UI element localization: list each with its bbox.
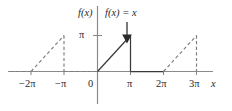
dashed-ramp-left bbox=[31, 36, 64, 72]
x-tick-label-0: 0 bbox=[88, 79, 93, 90]
x-tick-label-2pi: 2π bbox=[156, 79, 167, 90]
sawtooth-function-figure: f(x) f(x) = x π −2π −π 0 π 2π 3π x bbox=[0, 0, 232, 111]
function-annotation-label: f(x) = x bbox=[105, 8, 137, 19]
solid-ramp-principal bbox=[98, 36, 131, 72]
x-tick-label-3pi: 3π bbox=[189, 79, 200, 90]
y-axis-label: f(x) bbox=[78, 8, 93, 19]
y-tick-label-pi: π bbox=[79, 30, 84, 41]
x-tick-label--2pi: −2π bbox=[19, 79, 35, 90]
x-tick-label--pi: −π bbox=[55, 79, 66, 90]
x-tick-label-pi: π bbox=[127, 79, 132, 90]
x-axis-label: x bbox=[211, 79, 216, 90]
dashed-ramp-right bbox=[164, 36, 197, 72]
